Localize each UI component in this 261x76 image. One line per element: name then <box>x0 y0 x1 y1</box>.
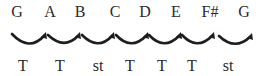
interval-label-tone: T <box>157 57 167 75</box>
arc-arrow-icon <box>116 32 149 43</box>
interval-label-tone: T <box>125 57 135 75</box>
interval-label-tone: T <box>55 57 65 75</box>
arc-arrow-icon <box>219 33 253 44</box>
interval-label-tone: T <box>187 57 197 75</box>
arc-arrow-icon <box>12 32 47 44</box>
interval-label-semitone: st <box>223 57 234 75</box>
arc-arrow-icon <box>182 32 215 43</box>
arc-arrow-icon <box>149 32 182 43</box>
interval-label-semitone: st <box>93 57 104 75</box>
arc-arrow-icon <box>48 32 81 43</box>
arc-arrow-icon <box>82 32 115 43</box>
interval-label-tone: T <box>18 57 28 75</box>
